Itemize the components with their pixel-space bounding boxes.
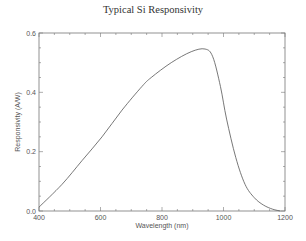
x-tick-label: 400 [33,214,45,221]
y-tick-label: 0.0 [26,208,36,215]
responsivity-curve [39,49,280,211]
x-axis-label: Wavelength (nm) [135,222,188,230]
plot-frame [39,33,285,211]
y-axis-label: Responsivity (A/W) [14,92,22,152]
y-tick-label: 0.4 [26,89,36,96]
x-tick-label: 1200 [277,214,293,221]
y-tick-label: 0.2 [26,148,36,155]
x-tick-label: 600 [95,214,107,221]
responsivity-chart: 400600800100012000.00.20.40.6Wavelength … [0,0,306,241]
x-tick-label: 800 [156,214,168,221]
x-tick-label: 1000 [216,214,232,221]
y-tick-label: 0.6 [26,30,36,37]
